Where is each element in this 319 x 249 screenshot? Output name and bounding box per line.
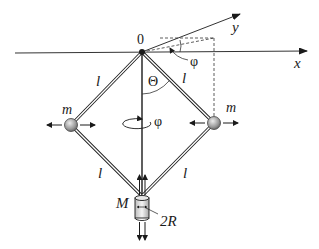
phi-pointer (170, 48, 188, 60)
sleeve-diameter-label: 2R (160, 213, 177, 229)
rod-length-lower-left: l (98, 165, 102, 181)
rotation-arrow (123, 119, 151, 129)
origin-pivot (139, 49, 145, 55)
mass-left-label: m (62, 102, 72, 117)
rod-length-upper-right: l (182, 70, 186, 86)
sleeve-cylinder (135, 196, 149, 221)
sleeve-mass-label: M (115, 195, 130, 211)
rod-length-upper-left: l (96, 73, 100, 89)
mass-left-ball (65, 119, 78, 132)
mass-right-label: m (226, 100, 236, 115)
y-axis (142, 14, 240, 52)
rod-length-lower-right: l (183, 165, 187, 181)
phi-angle-arc (180, 40, 181, 52)
rotation-phi-label: φ (154, 114, 162, 129)
diagram-canvas: 0 x y φ Θ l l l l m m φ M 2R (0, 0, 319, 249)
x-axis-label: x (293, 55, 301, 71)
phi-label-top: φ (190, 54, 198, 69)
mass-right-ball (208, 117, 221, 130)
x-axis (15, 51, 307, 53)
origin-label: 0 (137, 32, 144, 47)
governor-diagram: 0 x y φ Θ l l l l m m φ M 2R (0, 0, 319, 249)
theta-label: Θ (148, 74, 158, 89)
y-axis-label: y (230, 19, 239, 35)
